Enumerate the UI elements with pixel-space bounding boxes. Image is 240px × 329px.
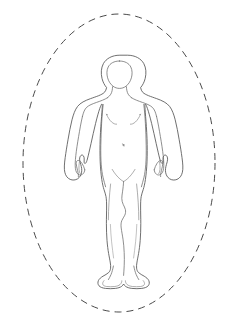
right-hand-thumb-line (159, 162, 160, 174)
body-silhouette-outline[interactable] (64, 55, 183, 288)
left-nipple-mark (106, 114, 107, 115)
body-diagram-svg (0, 0, 240, 329)
right-nipple-mark (139, 114, 140, 115)
body-diagram-canvas (0, 0, 240, 329)
